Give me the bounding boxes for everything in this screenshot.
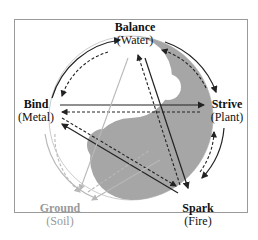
node-ground: Ground (Soil) [30,202,90,228]
node-element: (Plant) [200,111,254,124]
node-element: (Water) [100,34,170,47]
node-element: (Soil) [30,215,90,228]
node-spark: Spark (Fire) [170,202,226,228]
node-element: (Fire) [170,215,226,228]
node-balance: Balance (Water) [100,21,170,47]
node-bind: Bind (Metal) [14,98,58,124]
yang-dot [155,74,181,100]
node-element: (Metal) [14,111,58,124]
node-strive: Strive (Plant) [200,98,254,124]
